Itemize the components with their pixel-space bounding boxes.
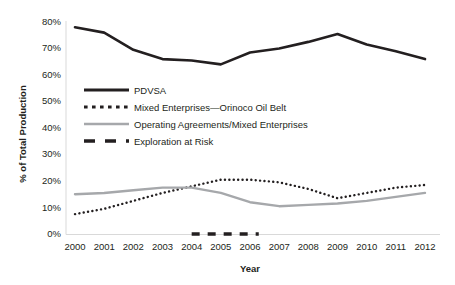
x-tick-label: 2010 (356, 241, 377, 252)
y-tick-label: 70% (42, 42, 62, 53)
legend-label: Operating Agreements/Mixed Enterprises (134, 119, 308, 130)
x-tick-label: 2012 (414, 241, 435, 252)
x-tick-label: 2001 (94, 241, 115, 252)
x-tick-label: 2005 (210, 241, 231, 252)
y-tick-label: 10% (42, 202, 62, 213)
x-tick-label: 2008 (298, 241, 319, 252)
legend-label: PDVSA (134, 85, 167, 96)
y-tick-label: 50% (42, 95, 62, 106)
x-tick-label: 2003 (152, 241, 173, 252)
line-chart: 80% 70% 60% 50% 40% 30% 20% 10% 0% 2000 … (0, 0, 455, 285)
y-tick-label: 60% (42, 69, 62, 80)
y-tick-labels: 80% 70% 60% 50% 40% 30% 20% 10% 0% (42, 16, 62, 240)
x-tick-label: 2006 (239, 241, 260, 252)
y-tick-label: 20% (42, 175, 62, 186)
x-tick-label: 2011 (386, 241, 406, 252)
x-tick-label: 2007 (269, 241, 290, 252)
legend-label: Exploration at Risk (134, 136, 213, 147)
y-tick-label: 30% (42, 148, 62, 159)
x-tick-label: 2002 (123, 241, 144, 252)
x-tick-label: 2004 (181, 241, 202, 252)
legend-label: Mixed Enterprises—Orinoco Oil Belt (134, 102, 286, 113)
x-tick-label: 2009 (327, 241, 348, 252)
y-tick-label: 0% (47, 228, 61, 239)
chart-container: 80% 70% 60% 50% 40% 30% 20% 10% 0% 2000 … (0, 0, 455, 285)
x-tick-label: 2000 (64, 241, 85, 252)
y-axis-title: % of Total Production (17, 85, 28, 183)
x-axis-title: Year (240, 263, 260, 274)
y-tick-label: 40% (42, 122, 62, 133)
y-tick-label: 80% (42, 16, 62, 27)
